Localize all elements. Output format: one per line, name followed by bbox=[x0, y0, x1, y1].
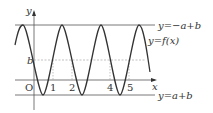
tick-4: 4 bbox=[107, 82, 113, 93]
curve-label: y=f(x) bbox=[147, 35, 179, 46]
top-line-label: y=−a+b bbox=[157, 20, 201, 31]
tick-1: 1 bbox=[50, 82, 56, 93]
tick-5: 5 bbox=[127, 82, 133, 93]
origin-label: O bbox=[25, 82, 33, 93]
tick-2: 2 bbox=[69, 82, 75, 93]
y-axis-label: y bbox=[25, 5, 32, 16]
b-label: b bbox=[27, 55, 33, 66]
y-axis-arrow-icon bbox=[32, 10, 36, 16]
sine-graph: y x O b 1 2 4 5 y=−a+b y=f(x) y=a+b bbox=[0, 0, 213, 113]
bottom-line-label: y=a+b bbox=[157, 90, 193, 101]
